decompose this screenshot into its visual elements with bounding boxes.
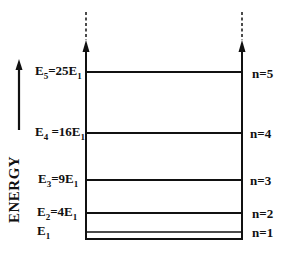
n-label-4: n=4	[250, 127, 271, 140]
n-label-1: n=1	[252, 226, 273, 239]
energy-arrow	[16, 59, 23, 130]
right-well-wall	[239, 12, 246, 240]
n-label-2: n=2	[252, 207, 273, 220]
energy-axis-label: ENERGY	[6, 156, 23, 223]
n-label-5: n=5	[252, 67, 273, 80]
energy-label-e1: E1	[37, 224, 50, 241]
energy-label-e2: E2=4E1	[37, 205, 77, 222]
energy-label-e5: E5=25E1	[35, 64, 82, 81]
energy-label-e3: E3=9E1	[38, 172, 78, 189]
n-label-3: n=3	[250, 174, 271, 187]
energy-label-e4: E4 =16E1	[35, 125, 85, 142]
